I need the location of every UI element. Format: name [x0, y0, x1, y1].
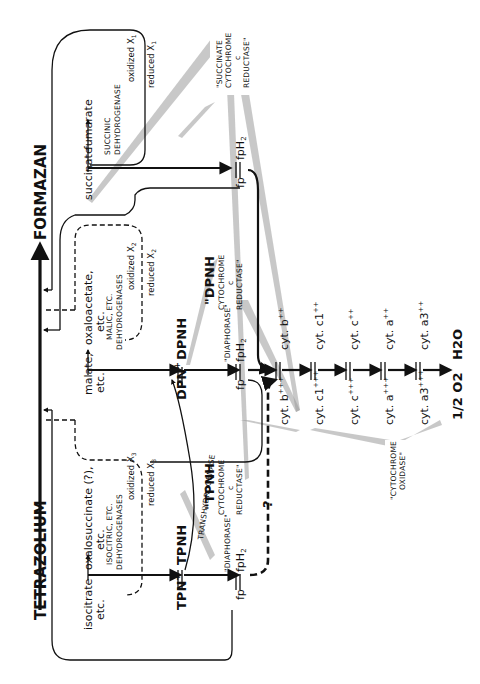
svg-text:cyt. c+++: cyt. c+++ — [347, 377, 361, 425]
svg-text:"CYTOCHROME: "CYTOCHROME — [389, 441, 398, 500]
fumarate-label: fumarate — [82, 99, 95, 150]
svg-text:CYTOCHROME: CYTOCHROME — [224, 33, 233, 88]
svg-text:c: c — [233, 56, 242, 60]
reduced-x2: reduced X2 — [146, 249, 157, 296]
svg-text:MALIC, ETC.: MALIC, ETC. — [105, 293, 114, 340]
cytochrome-oxidase-label: "CYTOCHROME OXIDASE" — [385, 440, 415, 505]
reduced-x1: reduced X1 — [146, 41, 157, 88]
svg-text:cyt. c1++: cyt. c1++ — [312, 301, 326, 350]
tpnh-label: TPNH — [174, 525, 189, 565]
diaphorase-label-dpn: "DIAPHORASE" — [223, 304, 232, 362]
succinic-label: SUCCINIC — [103, 117, 112, 155]
svg-text:cyt. c1+++: cyt. c1+++ — [312, 370, 326, 425]
cyt-a3: cyt. a3++ cyt. a3+++ — [416, 301, 431, 425]
oxalosuccinate-label: oxalosuccinate (?), — [82, 467, 95, 571]
oxidized-x1: oxidized X1 — [126, 34, 137, 82]
svg-text:ISOCITRIC, ETC.: ISOCITRIC, ETC. — [105, 503, 114, 565]
svg-text:CYTOCHROME: CYTOCHROME — [217, 460, 226, 515]
svg-text:cyt. a3++: cyt. a3++ — [417, 301, 431, 350]
svg-text:"TPNH: "TPNH — [202, 463, 217, 510]
svg-text:cyt. a+++: cyt. a+++ — [382, 377, 396, 425]
svg-text:fpH2: fpH2 — [234, 548, 248, 572]
svg-text:REDUCTASE": REDUCTASE" — [235, 464, 244, 515]
cyt-c: cyt. c++ cyt. c+++ — [346, 308, 361, 425]
question-mark: ? — [260, 500, 275, 508]
formazan-label: FORMAZAN — [32, 144, 50, 240]
dpn-equilibrium: DPN+ DPNH — [173, 318, 189, 400]
dpnh-cytc-reductase-label: "DPNH CYTOCHROME c REDUCTASE" — [202, 255, 244, 310]
svg-text:c: c — [226, 281, 235, 285]
cyt-a: cyt. a++ cyt. a+++ — [381, 308, 396, 425]
svg-text:fp: fp — [234, 589, 247, 600]
tpn-equilibrium: TPN+ TPNH — [173, 525, 189, 610]
svg-text:REDUCTASE": REDUCTASE" — [235, 259, 244, 310]
svg-text:DEHYDROGENASES: DEHYDROGENASES — [115, 494, 124, 570]
svg-text:"SUCCINATE: "SUCCINATE — [215, 40, 224, 88]
succinate-label: succinate — [82, 147, 95, 200]
svg-text:cyt. b+++: cyt. b+++ — [277, 376, 291, 425]
oxidized-x3: oxidized X3 — [126, 452, 137, 500]
svg-text:etc.: etc. — [94, 372, 107, 393]
terminal-oxygen: H2O 1/2 O2 — [450, 329, 465, 420]
cyt-c1: cyt. c1++ cyt. c1+++ — [311, 301, 326, 425]
tetrazolium-label: TETRAZOLIUM — [32, 500, 50, 620]
svg-text:DEHYDROGENASES: DEHYDROGENASES — [115, 274, 124, 350]
tpn-plus-label: TPN+ — [173, 574, 189, 610]
svg-text:fpH2: fpH2 — [234, 338, 248, 362]
tetrazolium-pathway-diagram: TETRAZOLIUM FORMAZAN succinate fumarate … — [0, 0, 480, 684]
svg-text:"DPNH: "DPNH — [202, 256, 217, 305]
tpnh-cytc-reductase-label: "TPNH CYTOCHROME c REDUCTASE" — [202, 460, 244, 515]
svg-text:cyt. a++: cyt. a++ — [382, 308, 396, 350]
svg-text:fp: fp — [234, 177, 247, 188]
fp-succinate: fp fpH2 — [234, 136, 248, 188]
svg-text:fp: fp — [234, 379, 247, 390]
oxaloacetate-label: oxaloacetate, — [82, 270, 95, 345]
svg-text:cyt. a3+++: cyt. a3+++ — [417, 370, 431, 425]
svg-text:CYTOCHROME: CYTOCHROME — [217, 255, 226, 310]
svg-text:REDUCTASE": REDUCTASE" — [242, 37, 251, 88]
water-label: H2O — [450, 329, 465, 360]
oxygen-label: 1/2 O2 — [450, 373, 465, 420]
dpnh-label: DPNH — [174, 318, 189, 360]
svg-text:OXIDASE": OXIDASE" — [398, 452, 407, 490]
oxidized-x2: oxidized X2 — [126, 242, 137, 290]
svg-text:cyt. c++: cyt. c++ — [347, 308, 361, 350]
svg-text:etc.: etc. — [94, 599, 107, 620]
succinate-cytc-reductase-label: "SUCCINATE CYTOCHROME c REDUCTASE" — [210, 20, 255, 95]
succinic-dehydrogenase-label: DEHYDROGENASE — [113, 84, 122, 155]
dpn-plus-label: DPN+ — [173, 362, 189, 400]
fp-tpnh: fp fpH2 "DIAPHORASE" — [223, 514, 248, 600]
reduced-x3: reduced X3 — [146, 459, 157, 506]
svg-text:fpH2: fpH2 — [234, 136, 248, 160]
diaphorase-label-tpn: "DIAPHORASE" — [223, 514, 232, 572]
svg-text:c: c — [226, 486, 235, 490]
svg-text:cyt. b++: cyt. b++ — [277, 307, 291, 350]
